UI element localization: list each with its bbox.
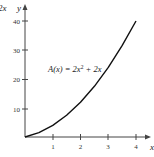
y-axis-label: y [16, 3, 21, 13]
x-tick-label: 2 [79, 143, 83, 151]
chart: 1 2 3 4 10 20 30 40 y x 2x A(x) = 2x2 + … [0, 0, 154, 157]
y-tick-label: 30 [13, 47, 21, 55]
x-tick-label: 1 [51, 143, 55, 151]
curve-annotation: A(x) = 2x2 + 2x [47, 64, 102, 75]
corner-label: 2x [0, 3, 7, 13]
x-axis-arrow-icon [145, 135, 151, 140]
annotation-rhs: + 2x [83, 64, 101, 74]
y-tick-label: 40 [13, 18, 21, 26]
x-tick-label: 4 [134, 143, 138, 151]
x-axis-label: x [149, 142, 154, 152]
y-axis-arrow-icon [23, 4, 28, 10]
x-tick-label: 3 [106, 143, 110, 151]
y-tick-label: 20 [13, 76, 21, 84]
annotation-lhs: A(x) = 2x [47, 64, 81, 74]
y-tick-label: 10 [13, 106, 21, 114]
curve-a-of-x [25, 21, 136, 137]
